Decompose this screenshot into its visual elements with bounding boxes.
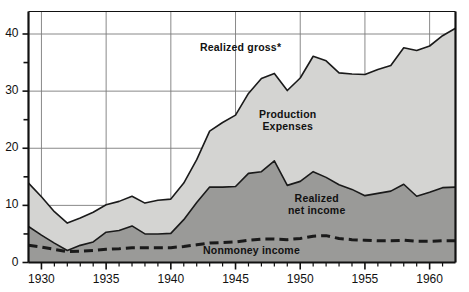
x-axis-tick-label: 1950 [277, 272, 323, 286]
farm-income-area-chart: 0 10 20 30 40 1930 1935 1940 1945 1950 1… [0, 0, 469, 292]
y-axis-tick-label: 20 [0, 140, 19, 154]
series-label-realized-net-income: Realized net income [288, 192, 345, 217]
series-label-nonmoney-income: Nonmoney income [203, 244, 300, 256]
x-axis-tick-label: 1935 [83, 272, 129, 286]
series-label-realized-net-income-line1: Realized [288, 192, 345, 204]
series-label-realized-gross: Realized gross* [200, 41, 281, 53]
x-axis-tick-label: 1955 [342, 272, 388, 286]
series-label-production-expenses-line2: Expenses [259, 120, 316, 132]
x-axis-tick-label: 1930 [18, 272, 64, 286]
y-axis-tick-label: 0 [0, 255, 19, 269]
x-axis-tick-label: 1940 [148, 272, 194, 286]
x-axis-tick-label: 1945 [213, 272, 259, 286]
y-axis-tick-label: 10 [0, 197, 19, 211]
y-axis-tick-label: 40 [0, 26, 19, 40]
y-axis-tick-label: 30 [0, 83, 19, 97]
x-axis-tick-label: 1960 [407, 272, 453, 286]
series-label-realized-net-income-line2: net income [288, 204, 345, 216]
series-label-production-expenses-line1: Production [259, 108, 316, 120]
series-label-production-expenses: Production Expenses [259, 108, 316, 133]
